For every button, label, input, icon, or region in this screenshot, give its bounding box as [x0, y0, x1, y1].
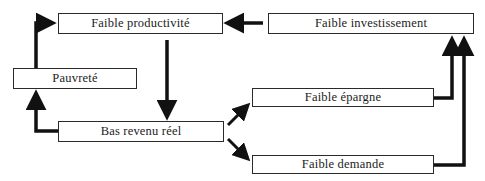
node-label: Faible épargne [305, 90, 382, 105]
arrow-revenu-to-pauvrete [36, 98, 58, 131]
node-faible-demande: Faible demande [252, 155, 434, 174]
node-faible-epargne: Faible épargne [252, 88, 434, 107]
arrow-pauvrete-to-productivite [36, 23, 48, 68]
node-faible-investissement: Faible investissement [268, 13, 474, 34]
node-label: Faible productivité [91, 16, 190, 31]
vicious-circle-diagram: Faible productivité Faible investissemen… [0, 0, 485, 181]
arrow-demande-to-investissement [433, 44, 464, 165]
node-bas-revenu-reel: Bas revenu réel [58, 121, 224, 142]
arrow-epargne-to-investissement [433, 44, 452, 98]
node-label: Faible investissement [315, 16, 427, 31]
node-faible-productivite: Faible productivité [58, 13, 223, 34]
node-label: Pauvreté [52, 71, 97, 86]
node-pauvrete: Pauvreté [13, 68, 137, 89]
node-label: Faible demande [302, 157, 384, 172]
node-label: Bas revenu réel [101, 124, 182, 139]
arrow-revenu-to-epargne [228, 108, 245, 125]
arrow-revenu-to-demande [228, 139, 245, 156]
